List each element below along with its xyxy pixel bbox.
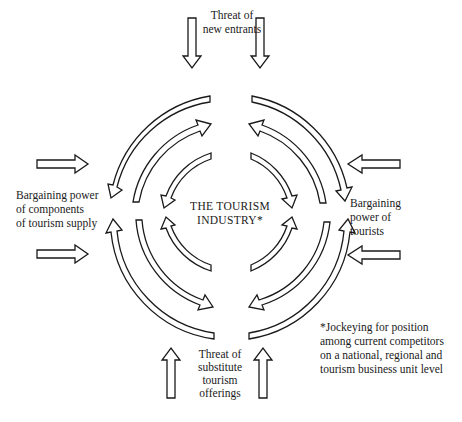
footnote-line: on a national, regional and — [320, 348, 444, 362]
outer-arc-bottom-left-icon — [106, 219, 214, 339]
arrow-right-icon — [37, 155, 88, 173]
label-line: tourists — [350, 224, 401, 238]
label-line: tourism — [186, 374, 254, 387]
label-line: new entrants — [200, 22, 264, 36]
label-line: of tourism supply — [16, 216, 99, 230]
label-line: INDUSTRY* — [170, 213, 290, 227]
bargaining-tourists-label: Bargaining power of tourists — [350, 196, 401, 238]
arrow-down-icon — [183, 18, 201, 68]
footnote-line: among current competitors — [320, 334, 444, 348]
arrow-up-icon — [254, 348, 272, 398]
arrow-right-icon — [37, 245, 88, 263]
threat-new-entrants-label: Threat of new entrants — [200, 8, 264, 36]
footnote: *Jockeying for position among current co… — [320, 320, 444, 376]
footnote-line: *Jockeying for position — [320, 320, 444, 334]
label-line: substitute — [186, 361, 254, 374]
label-line: offerings — [186, 387, 254, 400]
label-line: Threat of — [186, 348, 254, 361]
outer-arc-top-left-icon — [108, 96, 210, 198]
label-line: power of — [350, 210, 401, 224]
center-industry-label: THE TOURISM INDUSTRY* — [170, 199, 290, 227]
outer-arc-top-right-icon — [252, 96, 352, 201]
arrow-left-icon — [348, 246, 400, 264]
label-line: Threat of — [200, 8, 264, 22]
threat-substitutes-label: Threat of substitute tourism offerings — [186, 348, 254, 400]
arrow-left-icon — [348, 155, 400, 173]
label-line: of components — [16, 202, 99, 216]
footnote-line: tourism business unit level — [320, 362, 444, 376]
label-line: Bargaining power — [16, 188, 99, 202]
arrow-up-icon — [162, 348, 180, 398]
bargaining-suppliers-label: Bargaining power of components of touris… — [16, 188, 99, 230]
label-line: Bargaining — [350, 196, 401, 210]
label-line: THE TOURISM — [170, 199, 290, 213]
